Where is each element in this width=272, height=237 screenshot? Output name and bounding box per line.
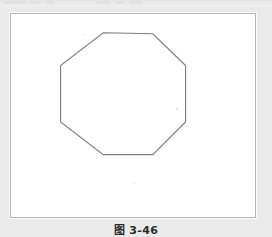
octagon-shape xyxy=(11,14,255,217)
figure-caption: 图 3-46 xyxy=(0,221,272,237)
bleed-mark-2 xyxy=(30,1,40,4)
bleed-mark-5 xyxy=(116,1,125,4)
page-top-bleed xyxy=(0,0,272,7)
scan-speck-bottom xyxy=(133,182,135,184)
figure-block: 图 3-46 xyxy=(0,7,272,237)
figure-frame xyxy=(10,13,256,218)
bleed-mark-4 xyxy=(96,1,110,4)
bleed-mark-6 xyxy=(130,1,142,4)
regular-octagon-path xyxy=(61,33,186,155)
scan-speck-topleft xyxy=(84,34,86,36)
bleed-mark-1 xyxy=(4,1,26,4)
bleed-mark-3 xyxy=(46,1,54,4)
scan-speck-right xyxy=(176,108,178,110)
